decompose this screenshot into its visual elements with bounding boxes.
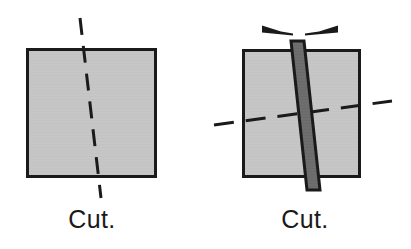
caption-left: Cut. [68, 205, 115, 233]
arrow-right [305, 26, 338, 36]
figure-container: Cut. Cut. [0, 0, 411, 249]
arrow-left [262, 26, 293, 36]
left-panel: Cut. [28, 18, 156, 233]
right-panel: Cut. [214, 26, 392, 234]
cutting-diagram: Cut. Cut. [0, 0, 411, 249]
caption-right: Cut. [281, 205, 328, 233]
